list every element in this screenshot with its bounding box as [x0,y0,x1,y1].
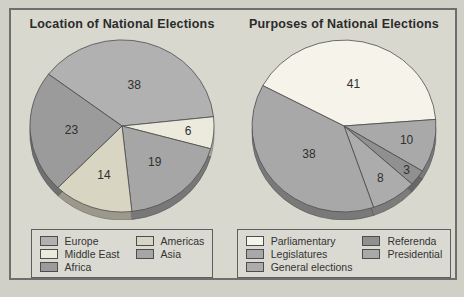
legend-label: Legislatures [271,248,328,260]
chart-purposes: Purposes of National Elections 41103838 … [233,10,455,278]
pie-chart-location: 386191423 [16,32,228,220]
legend-item-asia: Asia [136,247,205,260]
legend-swatch-icon [246,249,264,259]
legend-label: Africa [65,261,92,273]
legend-item-parliamentary: Parliamentary [246,234,353,247]
legend-label: Europe [65,235,99,247]
legend-swatch-icon [362,249,380,259]
pie-value-label: 14 [97,168,111,182]
legend-item-legislatures: Legislatures [246,247,353,260]
legend-swatch-icon [136,249,154,259]
legend-swatch-icon [246,236,264,246]
pie-chart-purposes: 41103838 [238,32,450,220]
legend-purposes: ParliamentaryLegislaturesGeneral electio… [237,229,452,278]
legend-label: Presidential [387,248,442,260]
legend-column: ReferendaPresidential [362,234,442,273]
chart-title-location: Location of National Elections [29,17,214,31]
legend-item-referenda: Referenda [362,234,442,247]
slide-panel: Location of National Elections 386191423… [9,8,457,280]
legend-swatch-icon [136,236,154,246]
legend-label: Asia [161,248,181,260]
legend-swatch-icon [40,262,58,272]
pie-value-label: 6 [185,124,192,138]
legend-label: Americas [161,235,205,247]
pie-value-label: 10 [400,133,414,147]
legend-item-africa: Africa [40,260,126,273]
pie-value-label: 19 [148,155,162,169]
legend-label: Parliamentary [271,235,336,247]
pie-value-label: 3 [403,163,410,177]
legend-item-presidential: Presidential [362,247,442,260]
legend-item-general-elections: General elections [246,260,353,273]
pie-value-label: 8 [377,171,384,185]
legend-swatch-icon [246,262,264,272]
pie-value-label: 38 [128,78,142,92]
legend-label: Referenda [387,235,436,247]
legend-column: EuropeMiddle EastAfrica [40,234,126,273]
legend-swatch-icon [40,236,58,246]
chart-title-purposes: Purposes of National Elections [249,17,439,31]
legend-column: ParliamentaryLegislaturesGeneral electio… [246,234,353,273]
legend-item-middle-east: Middle East [40,247,126,260]
legend-column: AmericasAsia [136,234,205,273]
legend-label: General elections [271,261,353,273]
legend-swatch-icon [40,249,58,259]
pie-value-label: 38 [302,147,316,161]
legend-label: Middle East [65,248,120,260]
legend-item-americas: Americas [136,234,205,247]
legend-swatch-icon [362,236,380,246]
legend-location: EuropeMiddle EastAfricaAmericasAsia [31,229,214,278]
legend-item-europe: Europe [40,234,126,247]
chart-location: Location of National Elections 386191423… [11,10,233,278]
pie-value-label: 41 [347,77,361,91]
pie-value-label: 23 [65,123,79,137]
